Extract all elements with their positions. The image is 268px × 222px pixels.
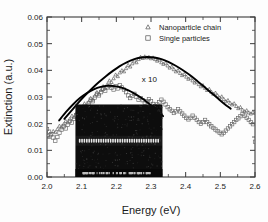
inset-noise-pixel <box>107 134 108 135</box>
inset-noise-pixel <box>97 110 98 111</box>
inset-noise-pixel <box>133 110 134 111</box>
inset-noise-pixel <box>150 157 151 158</box>
inset-noise-pixel <box>86 116 87 117</box>
inset-noise-pixel <box>133 167 134 168</box>
inset-noise-pixel <box>138 120 139 121</box>
inset-noise-pixel <box>152 165 153 166</box>
inset-noise-pixel <box>132 155 133 156</box>
inset-noise-pixel <box>148 148 149 149</box>
inset-metadata-glyph <box>120 172 122 174</box>
inset-noise-pixel <box>114 116 115 117</box>
annotation-x10: x 10 <box>142 75 158 84</box>
inset-noise-pixel <box>143 111 144 112</box>
inset-noise-pixel <box>88 107 89 108</box>
inset-metadata-glyph <box>102 172 104 174</box>
inset-noise-pixel <box>152 133 153 134</box>
inset-metadata-glyph <box>97 172 98 174</box>
inset-noise-pixel <box>147 119 148 120</box>
inset-noise-pixel <box>161 107 162 108</box>
inset-noise-pixel <box>84 119 85 120</box>
inset-noise-pixel <box>117 128 118 129</box>
inset-noise-pixel <box>95 166 96 167</box>
inset-noise-pixel <box>127 124 128 125</box>
chart-figure: 2.02.12.22.32.42.52.6 0.000.010.020.030.… <box>0 0 268 222</box>
inset-noise-pixel <box>127 107 128 108</box>
inset-noise-pixel <box>114 120 115 121</box>
inset-noise-pixel <box>125 119 126 120</box>
inset-noise-pixel <box>131 120 132 121</box>
inset-noise-pixel <box>147 121 148 122</box>
inset-metadata-glyph <box>139 172 141 174</box>
inset-noise-pixel <box>91 108 92 109</box>
inset-noise-pixel <box>160 106 161 107</box>
inset-noise-pixel <box>76 163 77 164</box>
inset-noise-pixel <box>147 167 148 168</box>
inset-noise-pixel <box>87 162 88 163</box>
inset-noise-pixel <box>103 154 104 155</box>
inset-noise-pixel <box>151 129 152 130</box>
inset-noise-pixel <box>137 162 138 163</box>
inset-noise-pixel <box>116 134 117 135</box>
inset-noise-pixel <box>96 162 97 163</box>
inset-noise-pixel <box>159 105 160 106</box>
extinction-spectrum-chart: 2.02.12.22.32.42.52.6 0.000.010.020.030.… <box>0 0 268 222</box>
inset-noise-pixel <box>97 121 98 122</box>
inset-metadata-glyph <box>109 172 110 174</box>
inset-noise-pixel <box>85 111 86 112</box>
chart-annotations: x 10 <box>142 75 158 84</box>
inset-noise-pixel <box>90 110 91 111</box>
y-tick-label: 0.04 <box>27 66 43 75</box>
inset-noise-pixel <box>150 168 151 169</box>
inset-noise-pixel <box>143 150 144 151</box>
inset-noise-pixel <box>94 117 95 118</box>
inset-metadata-glyph <box>101 172 103 174</box>
inset-noise-pixel <box>132 147 133 148</box>
inset-noise-pixel <box>136 130 137 131</box>
inset-noise-pixel <box>92 122 93 123</box>
inset-noise-pixel <box>123 111 124 112</box>
inset-noise-pixel <box>137 120 138 121</box>
inset-noise-pixel <box>113 135 114 136</box>
inset-noise-pixel <box>104 124 105 125</box>
inset-noise-pixel <box>145 148 146 149</box>
inset-noise-pixel <box>138 118 139 119</box>
inset-noise-pixel <box>100 114 101 115</box>
inset-noise-pixel <box>161 161 162 162</box>
legend-label: Nanoparticle chain <box>159 23 221 32</box>
x-tick-label: 2.4 <box>180 182 192 191</box>
inset-metadata-glyph <box>123 172 125 174</box>
inset-noise-pixel <box>76 114 77 115</box>
inset-noise-pixel <box>154 105 155 106</box>
inset-noise-pixel <box>78 168 79 169</box>
inset-noise-pixel <box>104 113 105 114</box>
inset-metadata-glyph <box>90 172 92 174</box>
inset-noise-pixel <box>105 166 106 167</box>
inset-noise-pixel <box>133 116 134 117</box>
inset-noise-pixel <box>136 133 137 134</box>
inset-noise-pixel <box>93 106 94 107</box>
inset-noise-pixel <box>105 132 106 133</box>
inset-noise-pixel <box>159 111 160 112</box>
inset-noise-pixel <box>157 110 158 111</box>
inset-noise-pixel <box>117 105 118 106</box>
inset-noise-pixel <box>90 135 91 136</box>
inset-noise-pixel <box>132 157 133 158</box>
inset-noise-pixel <box>161 115 162 116</box>
inset-noise-pixel <box>155 153 156 154</box>
inset-noise-pixel <box>141 106 142 107</box>
inset-noise-pixel <box>148 166 149 167</box>
inset-noise-pixel <box>79 165 80 166</box>
inset-noise-pixel <box>124 108 125 109</box>
inset-noise-pixel <box>83 166 84 167</box>
inset-noise-pixel <box>120 154 121 155</box>
inset-noise-pixel <box>117 155 118 156</box>
inset-noise-pixel <box>153 119 154 120</box>
inset-noise-pixel <box>83 108 84 109</box>
x-tick-label: 2.6 <box>249 182 261 191</box>
inset-noise-pixel <box>121 105 122 106</box>
y-tick-label: 0.02 <box>27 120 43 129</box>
inset-noise-pixel <box>158 156 159 157</box>
inset-noise-pixel <box>133 163 134 164</box>
inset-noise-pixel <box>94 151 95 152</box>
inset-noise-pixel <box>127 161 128 162</box>
